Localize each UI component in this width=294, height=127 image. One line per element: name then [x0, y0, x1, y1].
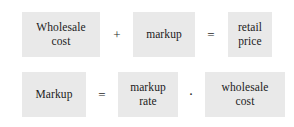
term-box-markup-subject: Markup — [22, 72, 86, 117]
plus-operator: + — [104, 27, 130, 41]
term-box-wholesale-cost: Wholesale cost — [22, 12, 100, 57]
term-box-markup-rate: markup rate — [118, 72, 178, 117]
multiplication-dot-operator: · — [180, 87, 202, 101]
formula-diagram: Wholesale cost + markup = retail price M… — [0, 0, 294, 127]
term-line-wholesale-2: wholesale — [222, 81, 269, 95]
term-line-wholesale: Wholesale — [36, 21, 85, 35]
term-line-markup-rate-1: markup — [130, 81, 166, 95]
term-line-cost-2: cost — [222, 95, 269, 109]
term-box-markup: markup — [133, 12, 195, 57]
term-line-price: price — [238, 35, 262, 49]
term-line-cost: cost — [36, 35, 85, 49]
equals-operator-row2: = — [88, 87, 116, 101]
equals-operator-row1: = — [198, 27, 224, 41]
term-box-wholesale-cost-factor: wholesale cost — [205, 72, 285, 117]
term-line-markup-subject: Markup — [35, 88, 72, 102]
term-line-retail: retail — [238, 21, 262, 35]
term-line-markup-rate-2: rate — [130, 95, 166, 109]
term-line-markup: markup — [146, 28, 182, 42]
term-box-retail-price: retail price — [228, 12, 272, 57]
